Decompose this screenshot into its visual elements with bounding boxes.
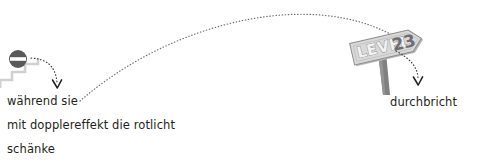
left-caption-block: während sie mit dopplereffekt die rotlic… <box>7 92 175 162</box>
right-caption: durchbricht <box>390 93 457 111</box>
arrow-sign-to-caption <box>396 51 423 85</box>
caption-line-3: schänke <box>7 140 175 158</box>
diagram-canvas: LEVEL 23 während sie mit dopplereffekt d… <box>0 0 477 162</box>
caption-line-1: während sie <box>7 92 175 110</box>
arrow-icon-to-caption <box>31 58 62 88</box>
caption-line-2: mit dopplereffekt die rotlicht <box>7 116 175 134</box>
no-entry-icon <box>9 50 27 68</box>
